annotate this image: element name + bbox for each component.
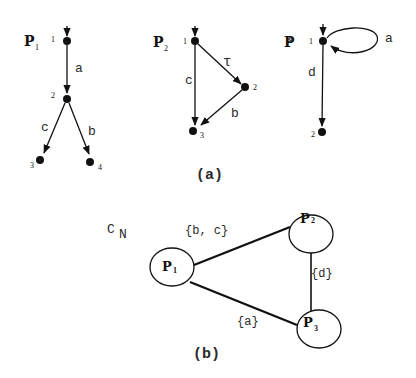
- node-p1: P 1: [150, 248, 194, 286]
- link-label: {d}: [311, 267, 333, 281]
- state-label: 3: [200, 131, 204, 140]
- caption-a: (a): [196, 167, 223, 184]
- state-node: [191, 37, 199, 45]
- state-label: 1: [183, 37, 187, 46]
- state-node: [36, 156, 44, 164]
- communication-network: C N {b, c} {d} {a} P 1 P 2 P 3 (b): [107, 211, 341, 363]
- process-p1-subscript: 1: [35, 43, 39, 52]
- transition-label: b: [88, 124, 96, 139]
- caption-b: (b): [193, 346, 220, 363]
- transition-label: b: [231, 106, 239, 121]
- process-p1: P 1 1 a 2 c b 3 4: [24, 26, 102, 172]
- svg-text:2: 2: [311, 216, 315, 225]
- svg-text:3: 3: [314, 324, 318, 333]
- svg-text:P: P: [300, 211, 310, 226]
- node-p3: P 3: [297, 310, 341, 348]
- process-diagram: P 1 1 a 2 c b 3 4 P 2 1 τ c 2 b 3 (: [0, 0, 416, 378]
- transition-label: a: [385, 31, 393, 46]
- transition-label: a: [75, 61, 83, 76]
- link-label: {a}: [237, 315, 259, 329]
- state-node: [63, 95, 71, 103]
- state-label: 3: [30, 161, 34, 170]
- state-label: 1: [51, 35, 55, 44]
- transition-label: c: [41, 120, 49, 135]
- network-subscript: N: [119, 227, 127, 242]
- self-loop-edge: [327, 28, 378, 53]
- svg-text:P: P: [162, 259, 172, 274]
- state-label: 2: [51, 91, 55, 100]
- process-p2: P 2 1 τ c 2 b 3 (a): [153, 26, 257, 184]
- process-p2-name: P: [153, 34, 164, 50]
- state-label: 4: [98, 163, 102, 172]
- node-p2: P 2: [289, 211, 333, 253]
- state-node: [63, 37, 71, 45]
- process-p1-name: P: [24, 33, 35, 49]
- transition-label: τ: [223, 54, 231, 70]
- state-label: 1: [309, 37, 313, 46]
- state-label: 2: [253, 83, 257, 92]
- transition-edge: [322, 45, 323, 126]
- transition-label: d: [308, 65, 316, 80]
- state-node: [318, 128, 326, 136]
- transition-edge: [69, 103, 89, 154]
- process-p3-subscript: 3: [287, 35, 291, 44]
- network-label: C: [107, 222, 115, 237]
- process-p2-subscript: 2: [164, 44, 168, 53]
- state-label: 2: [311, 130, 315, 139]
- transition-edge: [198, 44, 241, 84]
- process-p3: P 3 1 a d 2: [284, 24, 393, 139]
- svg-text:P: P: [303, 315, 313, 330]
- transition-label: c: [185, 73, 193, 88]
- link-label: {b, c}: [185, 224, 228, 238]
- state-node: [189, 127, 197, 135]
- state-node: [86, 158, 94, 166]
- state-node: [241, 83, 249, 91]
- svg-text:1: 1: [173, 266, 177, 275]
- state-node: [319, 37, 327, 45]
